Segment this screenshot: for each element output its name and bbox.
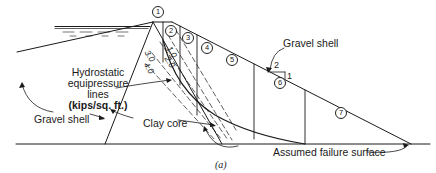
slice-number-7: 7 xyxy=(335,107,347,119)
slice-number-6: 6 xyxy=(274,77,286,89)
gravel-shell-left-label: Gravel shell xyxy=(34,114,89,125)
clay-core-label: Clay core xyxy=(143,118,187,129)
failure-surface-label: Assumed failure surface xyxy=(273,147,386,158)
hydrostatic-line-4: (kips/sq. ft.) xyxy=(60,100,136,111)
slice-number-3: 3 xyxy=(182,32,194,44)
figure-caption: (a) xyxy=(215,159,227,170)
hydrostatic-label: Hydrostatic equipressure lines (kips/sq.… xyxy=(60,67,136,111)
gravel-shell-right-label: Gravel shell xyxy=(283,38,338,49)
reservoir-water-surface xyxy=(55,27,150,37)
slice-number-2: 2 xyxy=(165,25,177,37)
slice-number-1: 1 xyxy=(152,6,164,18)
slope-horizontal-label: 2 xyxy=(274,60,279,70)
slice-number-4: 4 xyxy=(201,42,213,54)
slope-vertical-label: 1 xyxy=(287,71,292,81)
slice-number-5: 5 xyxy=(226,54,238,66)
